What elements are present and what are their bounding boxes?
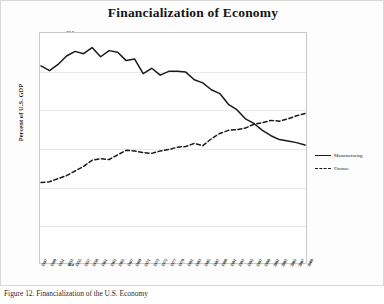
plot-area: [39, 32, 307, 264]
figure-container: Financialization of Economy Percent of U…: [0, 0, 384, 286]
legend-item-finance: Finance: [315, 162, 381, 175]
x-axis-tick-labels: 1947194919511953195519571959196119631965…: [39, 265, 307, 285]
series-layer: [40, 33, 306, 263]
chart-legend: Manufacturing Finance: [315, 149, 381, 175]
legend-item-manufacturing: Manufacturing: [315, 149, 381, 162]
legend-swatch-dashed-icon: [315, 168, 331, 169]
x-axis-tick-label: 2009: [306, 258, 314, 267]
chart-title: Financialization of Economy: [1, 5, 384, 21]
series-line-finance: [41, 114, 305, 183]
y-axis-title: Percent of U.S. GDP: [17, 58, 24, 168]
legend-swatch-solid-icon: [315, 155, 331, 156]
figure-caption: Figure 12. Financialization of the U.S. …: [4, 289, 380, 298]
legend-label-manufacturing: Manufacturing: [334, 153, 363, 158]
series-line-manufacturing: [41, 48, 305, 145]
legend-label-finance: Finance: [334, 166, 349, 171]
